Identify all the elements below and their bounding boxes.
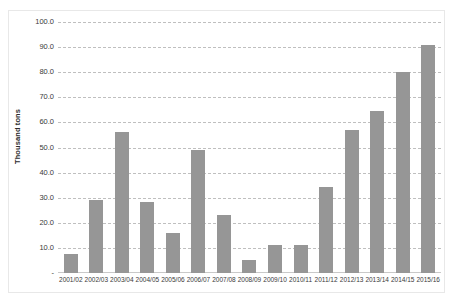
- bar[interactable]: [396, 72, 410, 273]
- bar-slot: [211, 22, 237, 273]
- bar[interactable]: [294, 245, 308, 273]
- bar-slot: [84, 22, 110, 273]
- y-axis-tick-label: 20.0: [24, 219, 54, 227]
- y-axis-tick-labels: 100.090.080.070.060.050.040.030.020.010.…: [24, 0, 54, 299]
- bar-slot: [109, 22, 135, 273]
- x-axis-tick-label: 2011/12: [313, 275, 339, 289]
- y-axis-tick-label: 100.0: [24, 18, 54, 26]
- bar[interactable]: [115, 132, 129, 273]
- bar[interactable]: [242, 260, 256, 273]
- x-axis-tick-label: 2003/04: [109, 275, 135, 289]
- bar-slot: [160, 22, 186, 273]
- bar[interactable]: [166, 233, 180, 273]
- bar-slot: [390, 22, 416, 273]
- y-axis-tick-label: 80.0: [24, 68, 54, 76]
- x-axis-tick-label: 2010/11: [288, 275, 314, 289]
- bar[interactable]: [421, 45, 435, 273]
- y-axis-tick-label: 70.0: [24, 93, 54, 101]
- y-axis-tick-label: -: [24, 269, 54, 277]
- x-axis-tick-label: 2006/07: [186, 275, 212, 289]
- y-axis-tick-label: 40.0: [24, 169, 54, 177]
- x-axis-tick-label: 2004/05: [135, 275, 161, 289]
- bar[interactable]: [89, 200, 103, 273]
- chart-title: [0, 0, 453, 1]
- x-axis-tick-labels: 2001/022002/032003/042004/052005/062006/…: [58, 275, 441, 289]
- bar-slot: [135, 22, 161, 273]
- bar[interactable]: [268, 245, 282, 273]
- bar-slot: [58, 22, 84, 273]
- plot-area: [58, 22, 441, 273]
- bar[interactable]: [370, 111, 384, 273]
- bar[interactable]: [217, 215, 231, 273]
- x-axis-tick-label: 2008/09: [237, 275, 263, 289]
- y-axis-tick-label: 90.0: [24, 43, 54, 51]
- bar-slot: [262, 22, 288, 273]
- y-axis-tick-label: 30.0: [24, 194, 54, 202]
- y-axis-title: Thousand tons: [10, 96, 24, 176]
- x-axis-tick-label: 2012/13: [339, 275, 365, 289]
- x-axis-tick-label: 2005/06: [160, 275, 186, 289]
- x-axis-tick-label: 2001/02: [58, 275, 84, 289]
- bar-slot: [364, 22, 390, 273]
- bar-slot: [237, 22, 263, 273]
- bar-slot: [339, 22, 365, 273]
- y-axis-tick-label: 10.0: [24, 244, 54, 252]
- x-axis-tick-label: 2015/16: [415, 275, 441, 289]
- bar[interactable]: [140, 202, 154, 273]
- bar-chart: Thousand tons 100.090.080.070.060.050.04…: [0, 0, 453, 299]
- x-axis-tick-label: 2014/15: [390, 275, 416, 289]
- bar[interactable]: [64, 254, 78, 273]
- y-axis-tick-label: 50.0: [24, 144, 54, 152]
- x-axis-tick-label: 2007/08: [211, 275, 237, 289]
- bar-series: [58, 22, 441, 273]
- x-axis-tick-label: 2009/10: [262, 275, 288, 289]
- bar-slot: [288, 22, 314, 273]
- bar-slot: [415, 22, 441, 273]
- bar-slot: [313, 22, 339, 273]
- y-axis-tick-label: 60.0: [24, 118, 54, 126]
- x-axis-tick-label: 2013/14: [364, 275, 390, 289]
- bar[interactable]: [191, 150, 205, 273]
- x-axis-tick-label: 2002/03: [84, 275, 110, 289]
- bar[interactable]: [345, 130, 359, 273]
- bar-slot: [186, 22, 212, 273]
- bar[interactable]: [319, 187, 333, 273]
